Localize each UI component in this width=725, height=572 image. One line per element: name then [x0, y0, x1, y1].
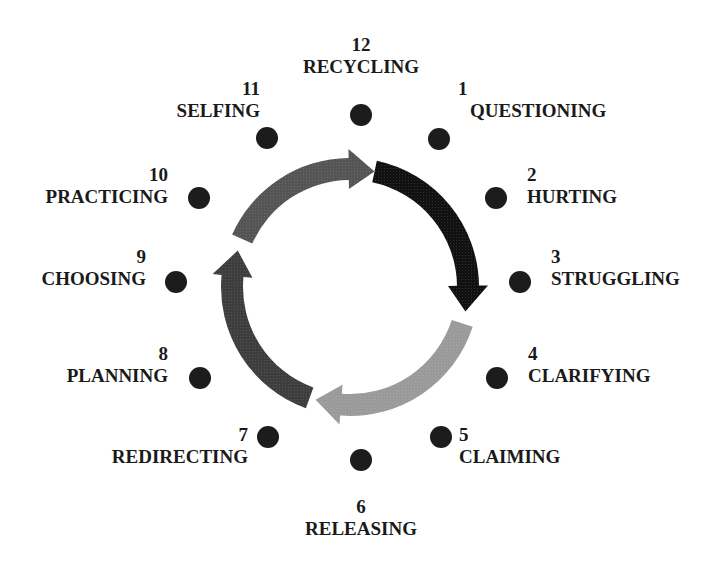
stage-label-5: 5 CLAIMING — [459, 424, 560, 468]
stage-name: STRUGGLING — [551, 268, 680, 290]
stage-name: HURTING — [527, 186, 617, 208]
stage-label-3: 3 STRUGGLING — [551, 246, 680, 290]
stage-dot-1 — [428, 128, 450, 150]
stage-number: 9 — [41, 246, 146, 268]
arrow-stages-10-12-texture — [232, 149, 374, 243]
stage-dot-7 — [257, 426, 279, 448]
stage-number: 6 — [305, 496, 417, 518]
stage-number: 12 — [303, 34, 419, 56]
stage-dot-5 — [430, 426, 452, 448]
stage-number: 1 — [458, 78, 606, 100]
stage-dot-4 — [486, 367, 508, 389]
stage-label-4: 4 CLARIFYING — [528, 343, 650, 387]
stage-number: 4 — [528, 343, 650, 365]
stage-label-1: 1 QUESTIONING — [458, 78, 606, 122]
stage-label-9: 9 CHOOSING — [41, 246, 146, 290]
stage-name: CLARIFYING — [528, 365, 650, 387]
stage-name: QUESTIONING — [470, 100, 606, 122]
stage-dot-9 — [165, 271, 187, 293]
stage-number: 7 — [112, 424, 248, 446]
stage-name: CHOOSING — [41, 268, 146, 290]
stage-name: PLANNING — [67, 365, 168, 387]
stage-dot-12 — [350, 104, 372, 126]
stage-dot-11 — [256, 127, 278, 149]
stage-name: REDIRECTING — [112, 446, 248, 468]
stage-dot-2 — [485, 187, 507, 209]
stage-number: 2 — [527, 164, 617, 186]
stage-dot-8 — [189, 367, 211, 389]
stage-dot-3 — [509, 271, 531, 293]
arrow-stages-7-9-texture — [213, 251, 314, 409]
stage-number: 11 — [177, 78, 260, 100]
stage-name: PRACTICING — [46, 186, 168, 208]
stage-label-2: 2 HURTING — [527, 164, 617, 208]
stage-label-8: 8 PLANNING — [67, 343, 168, 387]
stage-name: CLAIMING — [459, 446, 560, 468]
stage-number: 5 — [459, 424, 560, 446]
stage-label-11: 11 SELFING — [177, 78, 260, 122]
arrow-stages-4-6-texture — [316, 320, 473, 425]
stage-name: SELFING — [177, 100, 260, 122]
stage-name: RELEASING — [305, 518, 417, 540]
stage-number: 10 — [46, 164, 168, 186]
stage-label-12: 12 RECYCLING — [303, 34, 419, 78]
stage-number: 8 — [67, 343, 168, 365]
stage-label-7: 7 REDIRECTING — [112, 424, 248, 468]
arrow-stages-1-3-texture — [372, 161, 488, 312]
stage-dot-6 — [350, 449, 372, 471]
cycle-arrows — [213, 149, 488, 425]
stage-label-6: 6 RELEASING — [305, 496, 417, 540]
stage-name: RECYCLING — [303, 56, 419, 78]
stage-number: 3 — [551, 246, 680, 268]
stage-dot-10 — [188, 187, 210, 209]
stage-label-10: 10 PRACTICING — [46, 164, 168, 208]
